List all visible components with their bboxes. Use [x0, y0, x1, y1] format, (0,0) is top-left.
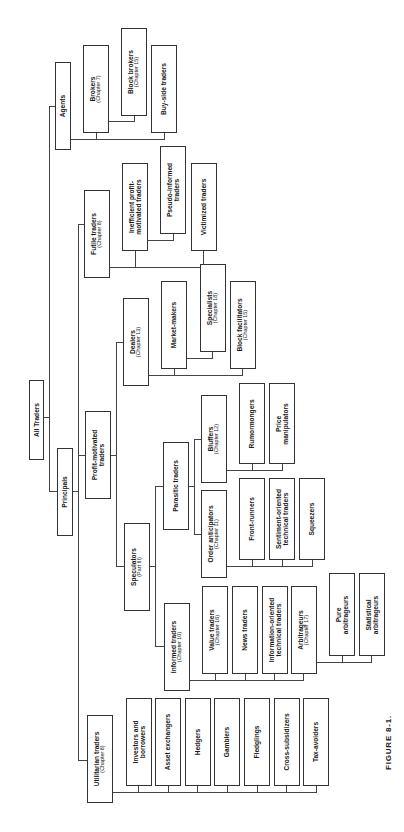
node-label: Asset exchangers	[164, 714, 171, 770]
node-label: Fledglings	[253, 726, 260, 759]
node-label-line2: arbitrageurs	[372, 595, 379, 633]
node-profit-motivated: Profit-motivatedtraders	[85, 411, 111, 499]
connector	[257, 786, 258, 793]
connector	[155, 486, 163, 487]
node-investors-and-borrowers: Investors andborrowers	[126, 698, 152, 786]
connector	[78, 760, 87, 761]
node-sentiment-oriented: Sentiment-orientedtechnical traders	[269, 478, 295, 560]
node-label: Investors and	[132, 721, 139, 764]
connector	[194, 439, 201, 440]
node-label: Statistical	[365, 595, 372, 633]
connector	[96, 133, 97, 140]
connector	[49, 106, 50, 492]
node-label-line2: technical traders	[282, 489, 289, 549]
node-specialists: Specialists(Chapter 18)	[200, 264, 226, 352]
connector	[49, 491, 57, 492]
trader-taxonomy-diagram: All Traders Agents Principals Brokers(Ch…	[0, 0, 404, 832]
connector	[173, 234, 174, 241]
node-label-line2: arbitrageurs	[342, 595, 349, 633]
connector	[215, 674, 216, 681]
node-label: Hedgers	[194, 729, 201, 755]
node-chapter: (Chapter 8)	[98, 213, 104, 255]
node-chapter: (Chapter 12)	[215, 424, 221, 454]
node-label: Information-oriented	[268, 598, 275, 662]
node-futile-traders: Futile traders(Chapter 8)	[84, 190, 110, 278]
node-label: Cross-subsidizers	[283, 713, 290, 770]
node-asset-exchangers: Asset exchangers	[155, 698, 181, 786]
node-price-manipulators: Pricemanipulators	[269, 383, 295, 464]
connector	[155, 486, 156, 647]
node-buy-side-traders: Buy-side traders	[151, 45, 177, 133]
node-speculators: Speculators(Part III)	[124, 523, 150, 611]
connector	[110, 267, 204, 268]
node-label: Tax-avoiders	[312, 722, 319, 762]
connector	[78, 224, 79, 761]
node-label: Agents	[59, 95, 66, 117]
node-label-line2: manipulators	[282, 403, 289, 444]
node-chapter: (Chapter 8)	[101, 732, 107, 787]
node-chapter: (Chapter 10)	[178, 621, 184, 673]
node-chapter: (Chapter 15)	[244, 298, 250, 351]
connector	[134, 116, 135, 122]
node-gamblers: Gamblers	[214, 698, 240, 786]
node-dealers: Dealers(Chapter 13)	[123, 298, 149, 386]
node-label: Principals	[61, 476, 68, 508]
node-label: Front-runners	[248, 497, 255, 541]
node-label: Parasitic traders	[172, 460, 179, 512]
connector	[71, 139, 165, 140]
node-label: Gamblers	[223, 727, 230, 757]
connector	[194, 439, 195, 535]
node-principals: Principals	[57, 448, 73, 536]
node-label: Buy-side traders	[160, 63, 167, 115]
node-statistical-arbitrageurs: Statisticalarbitrageurs	[359, 573, 385, 656]
node-agents: Agents	[55, 62, 71, 150]
node-chapter: (Part III)	[138, 548, 144, 586]
connector	[116, 342, 123, 343]
connector	[116, 566, 124, 567]
node-label: Victimized traders	[200, 179, 207, 236]
connector	[187, 358, 213, 359]
node-chapter: (Chapter 18)	[214, 291, 220, 325]
node-label: News traders	[241, 609, 248, 650]
node-chapter: (Chapter 11)	[215, 505, 221, 562]
connector	[242, 369, 243, 376]
node-block-facilitators: Block facilitators(Chapter 15)	[230, 281, 256, 369]
node-label: Sentiment-oriented	[275, 489, 282, 549]
node-utilitarian-traders: Utilitarian traders(Chapter 8)	[87, 715, 113, 803]
node-parasitic-traders: Parasitic traders	[163, 442, 189, 530]
node-cross-subsidizers: Cross-subsidizers	[274, 698, 300, 786]
connector	[227, 566, 313, 567]
node-value-traders: Value traders(Chapter 16)	[202, 586, 228, 674]
connector	[316, 786, 317, 793]
node-inefficient-profit-motivated: Inefficient profit-motivated traders	[122, 163, 148, 251]
node-informed-traders: Informed traders(Chapter 10)	[164, 603, 190, 691]
node-arbitrageurs: Arbitrageurs(Chapter 17)	[291, 586, 317, 674]
connector	[252, 464, 253, 471]
connector	[194, 534, 201, 535]
node-chapter: (Chapter 13)	[137, 327, 143, 357]
node-information-oriented: Information-orientedtechnical traders	[262, 586, 288, 674]
connector	[212, 352, 213, 359]
connector	[197, 786, 198, 793]
node-fledglings: Fledglings	[244, 698, 270, 786]
connector	[138, 786, 139, 793]
node-label-line2: borrowers	[139, 721, 146, 764]
node-chapter: (Chapter 17)	[305, 610, 311, 650]
connector	[282, 464, 283, 471]
connector	[148, 240, 174, 241]
node-label-line2: traders	[173, 163, 180, 217]
node-label-line2: traders	[98, 430, 105, 481]
node-label: Pure	[335, 595, 342, 633]
node-order-anticipators: Order anticipators(Chapter 11)	[201, 490, 227, 578]
connector	[245, 674, 246, 681]
node-chapter: (Chapter 16)	[216, 609, 222, 650]
node-hedgers: Hedgers	[185, 698, 211, 786]
node-tax-avoiders: Tax-avoiders	[303, 698, 329, 786]
connector	[312, 560, 313, 567]
connector	[282, 560, 283, 567]
node-victimized-traders: Victimized traders	[191, 163, 217, 251]
connector	[317, 662, 372, 663]
figure-caption: FIGURE 8-1.	[384, 715, 393, 770]
node-label: Rumormongers	[248, 399, 255, 448]
node-brokers: Brokers(Chapter 7)	[83, 45, 109, 133]
